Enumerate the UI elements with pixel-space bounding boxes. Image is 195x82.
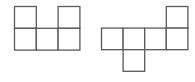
- net-right-square: [145, 28, 167, 50]
- net-left: [15, 7, 80, 51]
- net-left-square: [15, 7, 37, 29]
- net-left-square: [36, 28, 58, 50]
- net-left-square: [58, 7, 80, 29]
- net-right-square: [123, 28, 145, 50]
- net-right-square: [166, 28, 188, 50]
- net-right-square: [102, 28, 124, 50]
- net-right: [102, 7, 188, 72]
- net-right-square: [166, 7, 188, 29]
- diagram-canvas: [0, 0, 195, 82]
- net-right-square: [123, 50, 145, 72]
- net-left-square: [15, 28, 37, 50]
- net-left-square: [58, 28, 80, 50]
